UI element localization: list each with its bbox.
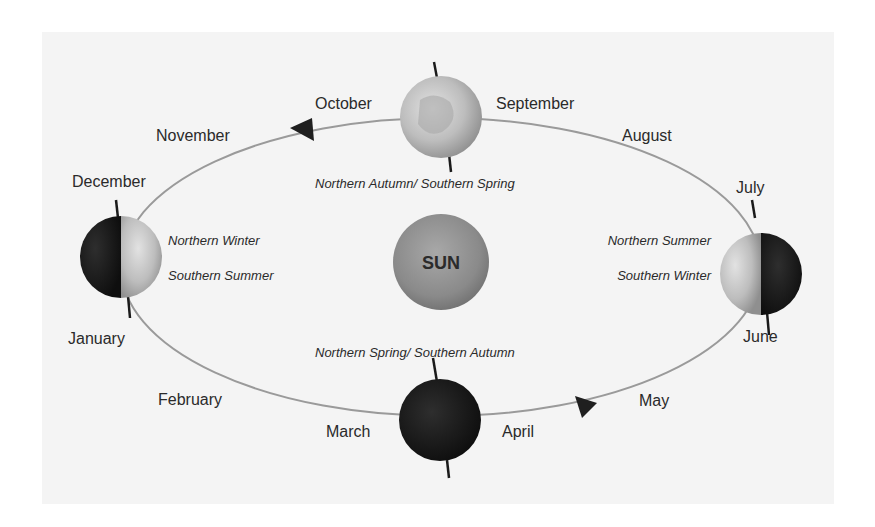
month-label-april: April (502, 423, 534, 440)
month-label-july: July (736, 179, 764, 196)
month-label-december: December (72, 173, 146, 190)
month-label-september: September (496, 95, 575, 112)
earth-top-autumnal (400, 62, 482, 172)
sun: SUN (393, 214, 489, 310)
season-label-top: Northern Autumn/ Southern Spring (315, 176, 515, 191)
season-label-bottom: Northern Spring/ Southern Autumn (315, 345, 515, 360)
season-label-left-northern: Northern Winter (168, 233, 260, 248)
orbit-diagram: SUN October September November August De… (0, 0, 875, 527)
season-label-right-southern: Southern Winter (617, 268, 711, 283)
month-label-october: October (315, 95, 373, 112)
earth-bottom-vernal (399, 358, 481, 478)
month-label-january: January (68, 330, 125, 347)
month-label-may: May (639, 392, 669, 409)
earth-left-december (78, 200, 164, 318)
season-label-right-northern: Northern Summer (608, 233, 712, 248)
orbit-direction-arrow-top (290, 118, 314, 141)
sun-label: SUN (422, 253, 460, 273)
month-label-march: March (326, 423, 370, 440)
month-label-june: June (743, 328, 778, 345)
earth-right-june (718, 200, 804, 335)
month-label-november: November (156, 127, 230, 144)
month-label-february: February (158, 391, 222, 408)
season-label-left-southern: Southern Summer (168, 268, 274, 283)
month-label-august: August (622, 127, 672, 144)
